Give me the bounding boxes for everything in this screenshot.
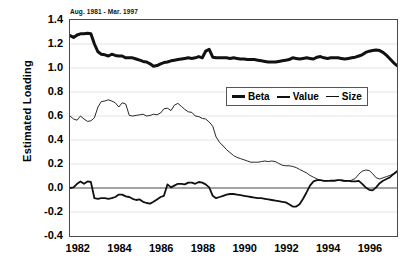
series-canvas [70, 20, 397, 236]
thick-line-swatch [232, 95, 245, 98]
x-tick-label: 1982 [66, 242, 90, 254]
chart-legend: BetaValueSize [226, 87, 368, 106]
series-line-size [70, 100, 397, 182]
legend-label: Size [342, 92, 362, 102]
x-tick-label: 1992 [274, 242, 298, 254]
medium-line-swatch [277, 96, 290, 98]
x-tick-label: 1984 [107, 242, 131, 254]
legend-item-beta[interactable]: Beta [232, 92, 270, 102]
legend-label: Value [293, 92, 319, 102]
series-line-value [70, 171, 397, 206]
x-tick-label: 1986 [149, 242, 173, 254]
x-tick-label: 1990 [232, 242, 256, 254]
thin-line-swatch [326, 96, 339, 97]
legend-item-size[interactable]: Size [326, 92, 362, 102]
x-tick-label: 1988 [191, 242, 215, 254]
x-tick-label: 1996 [358, 242, 382, 254]
plot-area [69, 19, 398, 237]
x-tick-label: 1994 [316, 242, 340, 254]
series-line-beta [70, 33, 397, 66]
legend-label: Beta [248, 92, 270, 102]
chart-figure: Estimated Loading Aug. 1981 - Mar. 1997 … [0, 0, 415, 267]
legend-item-value[interactable]: Value [277, 92, 319, 102]
